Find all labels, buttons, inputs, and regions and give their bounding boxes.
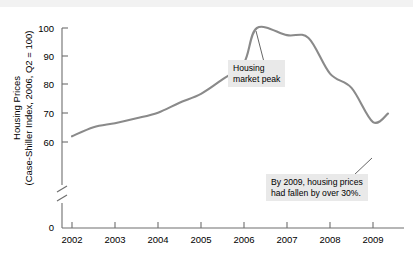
chart-canvas <box>0 0 413 256</box>
annotation-decline-line-1: By 2009, housing prices <box>271 177 363 188</box>
annotation-peak-line-1: Housing <box>233 63 280 74</box>
y-axis-break-mark-lower <box>57 195 67 201</box>
annotation-peak-line-2: market peak <box>233 74 280 85</box>
annotation-price-decline: By 2009, housing prices had fallen by ov… <box>266 174 368 201</box>
decline-annotation-leader-line <box>354 158 372 175</box>
y-axis-break-mark-upper <box>57 186 67 192</box>
annotation-decline-line-2: had fallen by over 30%. <box>271 188 363 199</box>
peak-annotation-leader-line <box>256 31 264 62</box>
housing-price-line-chart: Housing Prices (Case-Shiller Index, 2006… <box>0 0 413 256</box>
annotation-housing-market-peak: Housing market peak <box>228 60 285 87</box>
